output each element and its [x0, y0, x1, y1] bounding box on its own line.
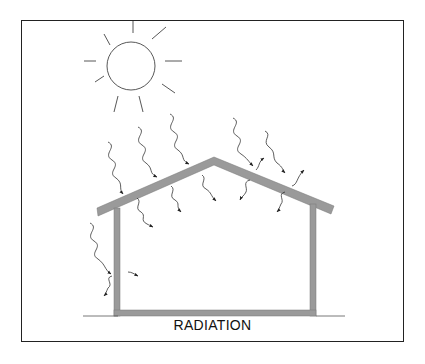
house-cross-section: [97, 157, 334, 316]
ray: [108, 142, 123, 194]
ray: [170, 114, 189, 164]
ray: [128, 272, 138, 276]
floor: [114, 310, 316, 316]
sun-icon: [84, 21, 182, 112]
ray: [256, 158, 264, 170]
ray: [90, 223, 111, 274]
ray: [240, 180, 250, 200]
ray: [138, 127, 157, 177]
radiation-diagram: [0, 0, 425, 364]
ray: [171, 186, 181, 212]
ray: [277, 192, 285, 212]
right-wall: [310, 204, 316, 316]
reradiated-rays: [104, 158, 304, 296]
ray: [292, 170, 304, 186]
left-wall: [114, 208, 120, 316]
diagram-title: RADIATION: [0, 317, 425, 333]
ray: [202, 175, 216, 201]
ray: [265, 131, 285, 173]
roof: [97, 157, 334, 216]
ray: [137, 198, 153, 227]
ray: [104, 276, 112, 296]
ray: [233, 118, 253, 166]
